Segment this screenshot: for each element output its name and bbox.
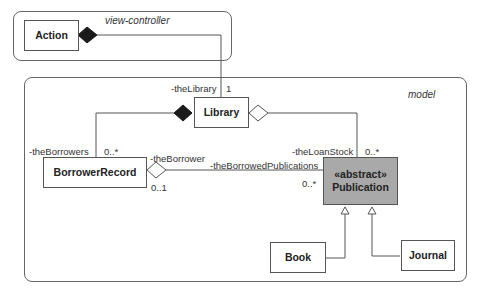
class-journal[interactable]: Journal — [401, 240, 455, 271]
class-publication[interactable]: «abstract» Publication — [323, 157, 398, 205]
aggregation-diamond-library-stock — [249, 105, 268, 121]
class-book[interactable]: Book — [270, 242, 326, 273]
class-publication-name: Publication — [332, 181, 389, 194]
role-the-loan-stock: -theLoanStock — [292, 146, 353, 157]
role-the-borrowed-publications: -theBorrowedPublications — [210, 160, 318, 171]
generalization-arrow-book — [341, 207, 349, 214]
class-action-name: Action — [35, 29, 68, 42]
role-the-borrower-mult: 0..1 — [151, 182, 167, 193]
role-the-borrowed-publications-mult: 0..* — [302, 178, 316, 189]
class-borrower-record[interactable]: BorrowerRecord — [43, 157, 147, 188]
role-the-borrowers-mult: 0..* — [104, 146, 118, 157]
class-journal-name: Journal — [409, 249, 447, 262]
class-action[interactable]: Action — [24, 20, 79, 51]
aggregation-diamond-borrower — [147, 162, 166, 178]
role-the-loan-stock-mult: 0..* — [365, 146, 379, 157]
class-book-name: Book — [285, 251, 311, 264]
role-the-library-mult: 1 — [226, 83, 231, 94]
class-publication-stereotype: «abstract» — [334, 168, 387, 181]
role-the-borrowers: -theBorrowers — [29, 146, 89, 157]
class-library[interactable]: Library — [194, 97, 249, 128]
class-borrower-record-name: BorrowerRecord — [54, 166, 137, 179]
role-the-borrower: -theBorrower — [150, 153, 205, 164]
composition-diamond-library-borrowers — [174, 105, 192, 121]
composition-diamond-action — [78, 27, 97, 43]
generalization-arrow-journal — [368, 207, 376, 214]
class-library-name: Library — [204, 106, 240, 119]
role-the-library: -theLibrary — [171, 83, 216, 94]
